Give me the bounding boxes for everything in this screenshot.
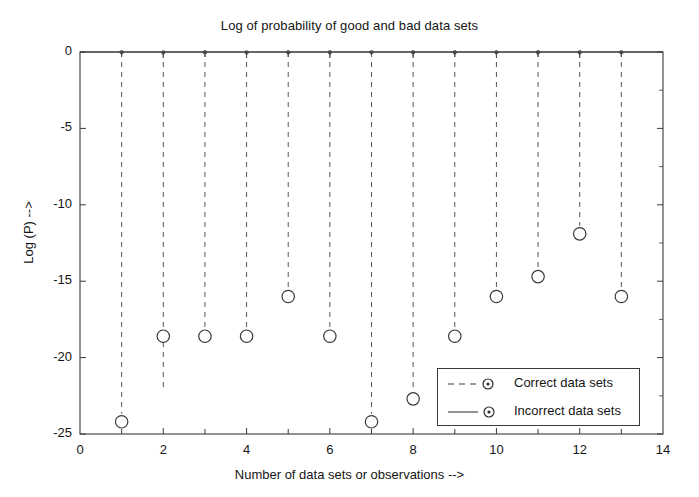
y-tick-label: -25	[18, 425, 72, 440]
data-marker-correct-dot	[371, 52, 372, 53]
legend-entry-incorrect: Incorrect data sets	[438, 397, 641, 426]
data-marker-incorrect	[199, 330, 211, 342]
data-marker-incorrect	[365, 416, 377, 428]
data-marker-correct-dot	[204, 52, 205, 53]
data-marker-correct-dot	[621, 52, 622, 53]
legend-solid-line-sample	[446, 397, 508, 426]
figure-canvas: Log of probability of good and bad data …	[0, 0, 699, 497]
legend: Correct data sets Incorrect data sets	[437, 368, 640, 426]
data-marker-correct-dot	[288, 52, 289, 53]
data-marker-incorrect	[157, 330, 169, 342]
y-tick-label: -5	[18, 119, 72, 134]
y-tick-label: -15	[18, 272, 72, 287]
x-tick-label: 12	[560, 442, 600, 457]
y-tick-label: -20	[18, 349, 72, 364]
y-tick-label: 0	[18, 43, 72, 58]
data-marker-incorrect	[407, 393, 419, 405]
data-marker-incorrect	[532, 270, 544, 282]
data-marker-correct-dot	[329, 52, 330, 53]
data-marker-incorrect	[282, 290, 294, 302]
x-axis-label: Number of data sets or observations -->	[0, 467, 699, 482]
data-marker-incorrect	[449, 330, 461, 342]
x-tick-label: 8	[393, 442, 433, 457]
x-tick-label: 0	[60, 442, 100, 457]
y-axis-label: Log (P) -->	[21, 143, 36, 323]
legend-entry-correct: Correct data sets	[438, 369, 641, 398]
legend-label-correct: Correct data sets	[514, 375, 613, 390]
data-marker-incorrect	[115, 416, 127, 428]
data-marker-correct-dot	[537, 52, 538, 53]
legend-dashed-line-sample	[446, 369, 508, 398]
data-marker-correct-dot	[163, 52, 164, 53]
x-tick-label: 2	[143, 442, 183, 457]
x-tick-label: 14	[643, 442, 683, 457]
legend-label-incorrect: Incorrect data sets	[514, 403, 621, 418]
data-marker-correct-dot	[121, 52, 122, 53]
data-marker-incorrect	[490, 290, 502, 302]
data-marker-correct-dot	[579, 52, 580, 53]
data-marker-incorrect	[324, 330, 336, 342]
data-marker-incorrect	[574, 228, 586, 240]
data-marker-correct-dot	[246, 52, 247, 53]
x-tick-label: 10	[476, 442, 516, 457]
x-tick-label: 6	[310, 442, 350, 457]
data-marker-correct-dot	[454, 52, 455, 53]
y-tick-label: -10	[18, 196, 72, 211]
data-marker-correct-dot	[496, 52, 497, 53]
data-marker-incorrect	[615, 290, 627, 302]
x-tick-label: 4	[227, 442, 267, 457]
data-marker-correct-dot	[412, 52, 413, 53]
data-marker-incorrect	[240, 330, 252, 342]
